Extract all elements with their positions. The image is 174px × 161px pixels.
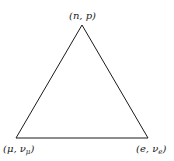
edge-top-to-bottom-right xyxy=(82,25,148,138)
vertex-label-top: (n, p) xyxy=(69,10,96,21)
lepton-triangle-diagram: (n, p) (μ, νμ) (e, νe) xyxy=(0,0,174,161)
edge-top-to-bottom-left xyxy=(16,25,82,138)
vertex-label-bottom-left: (μ, νμ) xyxy=(3,143,34,156)
vertex-label-bottom-right: (e, νe) xyxy=(136,143,166,156)
